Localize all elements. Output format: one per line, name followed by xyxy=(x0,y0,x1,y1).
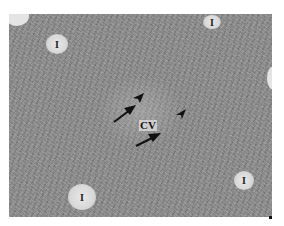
vessel-edge-right xyxy=(267,66,272,90)
vessel-label: I xyxy=(55,39,59,50)
vessel-edge-top-left xyxy=(9,14,29,26)
arrowhead-icon xyxy=(174,108,188,120)
micrograph-image: I I I I CV xyxy=(9,14,272,217)
vessel-bottom-left: I xyxy=(68,184,96,210)
vessel-top-left: I xyxy=(46,34,68,54)
corner-mark xyxy=(269,216,272,219)
arrowhead-icon xyxy=(131,92,145,104)
vessel-bottom-right: I xyxy=(234,171,254,190)
vessel-top-center-right: I xyxy=(203,15,221,29)
arrow-icon xyxy=(112,102,138,124)
vessel-label: I xyxy=(242,175,246,186)
vessel-label: I xyxy=(210,17,214,28)
arrow-icon xyxy=(134,130,162,148)
vessel-label: I xyxy=(80,192,84,203)
